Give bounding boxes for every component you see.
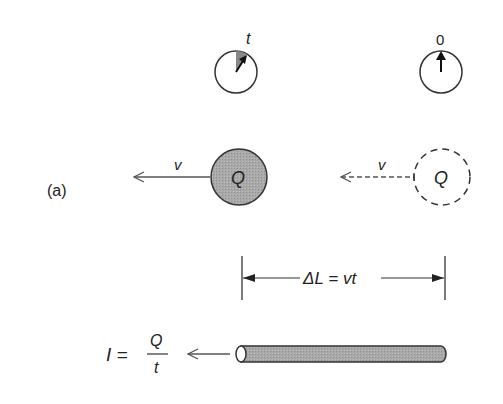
panel-label: (a): [47, 182, 67, 199]
clock-zero-icon: [420, 51, 462, 93]
charge-initial-label: Q: [434, 168, 448, 188]
length-label: ΔL = vt: [302, 269, 357, 288]
wire-cylinder: [236, 346, 446, 362]
charge-moving-label: Q: [231, 168, 245, 188]
clock-t-icon: [215, 51, 257, 93]
current-formula-lhs: I =: [106, 344, 128, 365]
clock-t-label: t: [246, 30, 251, 47]
current-formula-denominator: t: [154, 359, 159, 376]
velocity-label-initial: v: [378, 156, 387, 173]
clock-zero-label: 0: [436, 31, 444, 48]
diagram-canvas: t 0 (a) v Q v Q ΔL = vt I = Q t: [0, 0, 503, 404]
velocity-label-moving: v: [174, 156, 183, 173]
current-formula-numerator: Q: [150, 332, 162, 349]
